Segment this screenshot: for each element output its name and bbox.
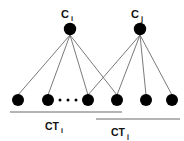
bottom-node-b1 [12, 94, 24, 106]
top-node-subscript-c-j: j [140, 14, 143, 23]
bracket-subscript-ct-i: i [61, 127, 63, 134]
edge-c-i-to-b1 [18, 35, 70, 95]
top-node-subscript-c-i: i [71, 14, 73, 23]
edge-c-i-to-b4 [70, 35, 117, 95]
top-node-c-i [64, 23, 76, 35]
bracket-label-ct-i: CT [45, 120, 60, 132]
edge-c-i-to-b3 [70, 35, 88, 95]
labels-group: CiCjCTiCTj [45, 8, 143, 140]
bottom-node-b5 [140, 94, 152, 106]
top-node-c-j [134, 23, 146, 35]
top-node-label-c-j: C [131, 8, 139, 20]
diagram-canvas: CiCjCTiCTj [0, 0, 184, 140]
brackets-group [10, 112, 180, 119]
bottom-node-b6 [166, 94, 178, 106]
bracket-subscript-ct-j: j [126, 133, 129, 141]
bracket-label-ct-j: CT [111, 126, 126, 138]
edges-group [18, 35, 172, 95]
edge-c-j-to-b4 [117, 35, 140, 95]
ellipsis-dot-1 [59, 99, 62, 102]
top-node-label-c-i: C [61, 8, 69, 20]
bottom-node-b4 [111, 94, 123, 106]
edge-c-i-to-b2 [48, 35, 70, 95]
bottom-node-b3 [82, 94, 94, 106]
cluster-diagram-figure: CiCjCTiCTj [0, 0, 184, 140]
bottom-row-ellipsis [59, 99, 78, 102]
ellipsis-dot-2 [67, 99, 70, 102]
ellipsis-dot-3 [75, 99, 78, 102]
bottom-node-b2 [42, 94, 54, 106]
top-nodes-group [64, 23, 146, 35]
edge-c-j-to-b3 [88, 35, 140, 95]
bottom-nodes-group [12, 94, 178, 106]
